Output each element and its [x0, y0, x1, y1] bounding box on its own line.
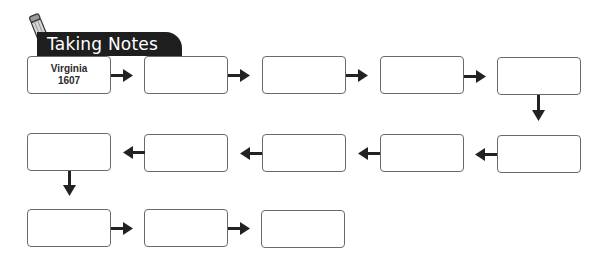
note-box-6[interactable]	[497, 135, 581, 173]
arrow-right-icon	[346, 69, 369, 82]
arrow-down-icon	[532, 95, 545, 122]
note-box-5[interactable]	[497, 57, 581, 95]
note-box-13[interactable]	[261, 210, 345, 248]
note-box-3[interactable]	[262, 56, 346, 94]
arrow-right-icon	[111, 222, 134, 235]
taking-notes-banner: Taking Notes	[37, 32, 182, 56]
note-box-7[interactable]	[380, 134, 464, 172]
arrow-right-icon	[228, 222, 251, 235]
arrow-left-icon	[240, 147, 262, 160]
arrow-right-icon	[228, 69, 251, 82]
note-box-1-line-1: Virginia	[51, 63, 88, 75]
arrow-right-icon	[464, 70, 487, 83]
arrow-down-icon	[63, 171, 76, 197]
note-box-10[interactable]	[27, 133, 111, 171]
arrow-left-icon	[475, 148, 497, 161]
arrow-left-icon	[123, 146, 145, 159]
note-box-1-line-2: 1607	[58, 75, 80, 87]
note-box-1[interactable]: Virginia 1607	[27, 56, 111, 94]
note-box-12[interactable]	[144, 209, 228, 247]
note-box-2[interactable]	[144, 56, 228, 94]
banner-title: Taking Notes	[47, 33, 158, 55]
note-box-11[interactable]	[27, 209, 111, 247]
arrow-left-icon	[358, 147, 380, 160]
note-box-8[interactable]	[262, 134, 346, 172]
note-box-9[interactable]	[144, 134, 228, 172]
arrow-right-icon	[111, 69, 134, 82]
note-box-4[interactable]	[380, 56, 464, 94]
